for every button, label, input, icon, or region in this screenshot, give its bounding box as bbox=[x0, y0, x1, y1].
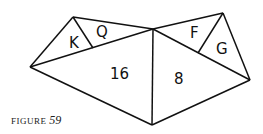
edge-bottom-to-right-point bbox=[152, 80, 250, 125]
edge-center-top-to-right-top bbox=[153, 13, 223, 29]
label-f: F bbox=[190, 24, 199, 42]
label-k: K bbox=[69, 34, 80, 52]
edge-left-apex-to-k-top bbox=[30, 17, 73, 67]
figure-caption: FIGURE 59 bbox=[11, 113, 61, 128]
edge-left-apex-to-center-top bbox=[30, 29, 153, 67]
caption-number: 59 bbox=[49, 113, 61, 127]
label-g: G bbox=[216, 40, 228, 58]
label-8: 8 bbox=[174, 70, 184, 88]
label-16: 16 bbox=[110, 65, 129, 83]
edge-center-vertical bbox=[152, 29, 153, 125]
label-q: Q bbox=[96, 23, 108, 41]
edge-center-top-to-right-point bbox=[153, 29, 250, 80]
edge-k-top-to-center-top bbox=[73, 17, 153, 29]
caption-prefix: FIGURE bbox=[11, 116, 47, 126]
